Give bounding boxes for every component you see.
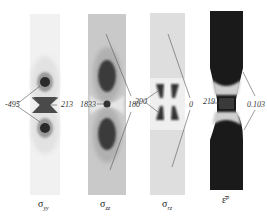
caption-sigma-zz: σzz [100, 198, 110, 211]
label-ep-min: 0.103 [247, 100, 265, 109]
label-szz-max: 1833 [80, 100, 96, 109]
panel-sigma-yy [17, 14, 60, 195]
label-srz-max: 390 [135, 97, 147, 106]
panel-sigma-rz [145, 13, 190, 195]
caption-equivalent-plastic-strain: ε̄p [222, 194, 229, 205]
label-ep-max: 219 [203, 97, 215, 106]
caption-sigma-yy: σyy [38, 198, 49, 211]
label-syy-max: 213 [61, 100, 73, 109]
label-syy-min: -495 [5, 100, 20, 109]
caption-sigma-rz: σrz [162, 198, 172, 211]
label-srz-zero: 0 [189, 100, 193, 109]
